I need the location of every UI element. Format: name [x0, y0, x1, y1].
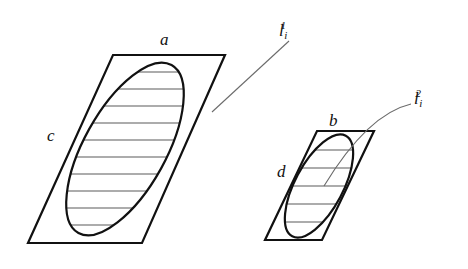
label-point-b: b	[329, 112, 338, 129]
label-line-l2-subscript: i	[419, 97, 422, 109]
large-figure-group	[10, 45, 240, 253]
label-point-c: c	[47, 127, 55, 144]
label-line-l1: l1i	[279, 20, 287, 41]
small-figure-group	[250, 124, 390, 247]
label-line-l1-subscript: i	[284, 29, 287, 41]
label-point-d: d	[277, 163, 286, 180]
geometry-figure	[0, 0, 468, 269]
figure-canvas: a b c d l1i l2i	[0, 0, 468, 269]
leader-line-l1	[212, 41, 289, 112]
label-point-a: a	[160, 31, 169, 48]
label-line-l2: l2i	[414, 88, 422, 109]
